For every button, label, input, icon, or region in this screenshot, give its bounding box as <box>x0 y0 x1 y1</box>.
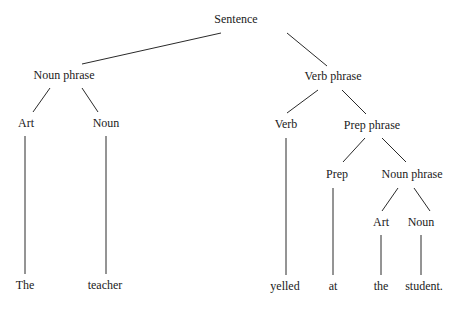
node-sentence: Sentence <box>214 13 257 25</box>
edge-np2-noun2 <box>414 188 430 211</box>
edge-sentence-np1 <box>82 33 221 64</box>
node-noun-phrase-subject: Noun phrase <box>34 69 95 81</box>
node-article-subject: Art <box>18 117 34 129</box>
node-noun-object: Noun <box>408 216 435 228</box>
node-prep-phrase: Prep phrase <box>344 119 400 131</box>
edge-pp-prep <box>343 138 365 162</box>
leaf-word-the-object: the <box>374 280 389 292</box>
node-verb: Verb <box>275 118 298 130</box>
node-noun-phrase-object: Noun phrase <box>382 168 443 180</box>
edge-np1-noun1 <box>82 88 98 112</box>
node-verb-phrase: Verb phrase <box>305 70 362 82</box>
node-article-object: Art <box>373 216 389 228</box>
edge-np2-art2 <box>382 188 398 211</box>
parse-tree-diagram: Sentence Noun phrase Verb phrase Art Nou… <box>0 0 459 310</box>
leaf-word-teacher: teacher <box>88 279 123 291</box>
edge-vp-pp <box>342 90 366 114</box>
leaf-word-the: The <box>16 279 35 291</box>
edge-vp-verb <box>287 90 318 113</box>
edge-pp-np2 <box>382 138 406 162</box>
leaf-word-student: student. <box>405 280 443 292</box>
edge-sentence-vp <box>287 33 327 66</box>
node-prep: Prep <box>326 168 348 180</box>
tree-edges <box>0 0 459 310</box>
leaf-word-yelled: yelled <box>270 280 299 292</box>
edge-np1-art1 <box>33 88 50 112</box>
leaf-word-at: at <box>329 280 338 292</box>
node-noun-subject: Noun <box>93 117 120 129</box>
